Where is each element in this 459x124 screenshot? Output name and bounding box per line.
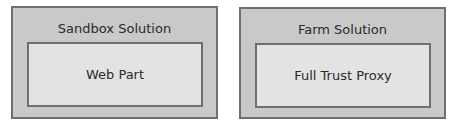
farm-solution-container: Farm Solution Full Trust Proxy: [239, 7, 446, 119]
web-part-box: Web Part: [27, 42, 203, 107]
sandbox-solution-title: Sandbox Solution: [13, 21, 216, 37]
sandbox-solution-container: Sandbox Solution Web Part: [11, 6, 218, 119]
web-part-label: Web Part: [86, 67, 144, 83]
full-trust-proxy-label: Full Trust Proxy: [294, 68, 392, 84]
farm-solution-title: Farm Solution: [241, 22, 444, 38]
full-trust-proxy-box: Full Trust Proxy: [255, 43, 431, 108]
